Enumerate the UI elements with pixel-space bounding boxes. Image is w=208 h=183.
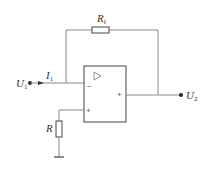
feedback-resistor <box>92 27 109 33</box>
label-rf: Rf <box>96 12 107 26</box>
noninverting-wire <box>59 110 84 121</box>
label-u1: U1 <box>16 77 28 91</box>
ground-resistor <box>56 121 62 137</box>
op-amp-circuit-diagram: − + + U1 I1 Rf U2 R <box>0 0 208 183</box>
label-u2: U2 <box>186 89 198 103</box>
inverting-sign: − <box>87 82 92 91</box>
noninverting-sign: + <box>86 106 91 115</box>
output-sign: + <box>117 90 122 99</box>
output-terminal-dot <box>179 93 183 97</box>
current-arrow-icon <box>38 81 44 85</box>
label-i1: I1 <box>45 69 54 83</box>
label-r: R <box>45 122 53 134</box>
